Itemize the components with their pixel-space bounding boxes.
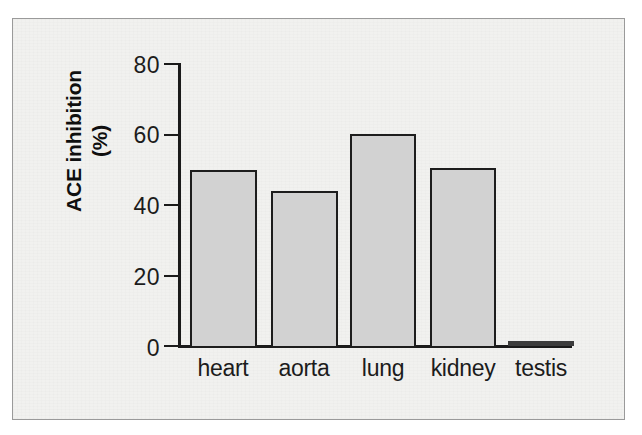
y-tick-mark-20 [164, 275, 179, 277]
x-label-heart: heart [183, 355, 263, 382]
y-tick-label-40: 40 [104, 193, 160, 220]
x-label-kidney: kidney [423, 355, 503, 382]
bar-testis [508, 341, 574, 346]
bar-heart [190, 170, 257, 348]
bar-lung [350, 134, 416, 348]
y-tick-mark-40 [164, 204, 179, 206]
x-label-aorta: aorta [264, 355, 344, 382]
y-tick-label-0: 0 [104, 335, 160, 362]
bar-chart-plot: ACE inhibition (%) 80 60 40 20 0 heart a… [0, 0, 642, 435]
bar-kidney [430, 168, 496, 348]
y-tick-label-80: 80 [104, 52, 160, 79]
y-tick-mark-0 [164, 345, 179, 347]
bar-aorta [271, 191, 338, 348]
y-tick-mark-80 [164, 63, 179, 65]
y-tick-mark-60 [164, 134, 179, 136]
y-axis-line [178, 63, 181, 348]
x-label-testis: testis [501, 355, 581, 382]
x-label-lung: lung [343, 355, 423, 382]
figure-container: ACE inhibition (%) 80 60 40 20 0 heart a… [0, 0, 642, 435]
y-tick-label-20: 20 [104, 264, 160, 291]
y-axis-title-line1: ACE inhibition [62, 70, 85, 212]
y-tick-label-60: 60 [104, 122, 160, 149]
